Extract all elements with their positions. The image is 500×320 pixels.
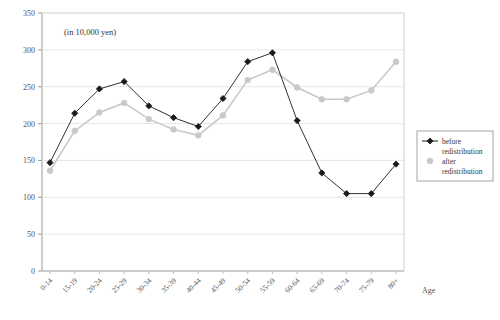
data-point-marker: [171, 127, 177, 133]
y-tick-label: 100: [23, 193, 35, 202]
x-tick-label: 25-29: [110, 276, 129, 295]
x-tick-label: 65-69: [308, 276, 327, 295]
data-point-marker: [245, 77, 251, 83]
x-tick-label: 30-34: [135, 276, 154, 295]
data-point-marker: [344, 96, 350, 102]
data-point-marker: [47, 168, 53, 174]
data-point-marker: [294, 85, 300, 91]
chart-legend: beforeredistributionafterredistribution: [417, 131, 493, 181]
x-tick-label: 35-39: [159, 276, 178, 295]
data-point-marker: [195, 132, 201, 138]
x-tick-label: 15-19: [60, 276, 79, 295]
y-tick-label: 350: [23, 9, 35, 18]
data-point-marker: [170, 115, 176, 121]
legend-label-after-line2: redistribution: [442, 167, 483, 176]
y-tick-label: 0: [31, 267, 35, 276]
x-tick-label: 75-79: [357, 276, 376, 295]
y-tick-label: 250: [23, 83, 35, 92]
legend-label-before-line2: redistribution: [442, 147, 483, 156]
x-tick-label: 20-24: [85, 276, 104, 295]
x-tick-label: 45-49: [209, 276, 228, 295]
unit-note: (in 10,000 yen): [64, 27, 116, 37]
data-point-marker: [269, 50, 275, 56]
chart-container: 0501001502002503003500-1415-1920-2425-29…: [0, 0, 500, 320]
data-point-marker: [368, 88, 374, 94]
y-tick-label: 300: [23, 46, 35, 55]
data-point-marker: [121, 100, 127, 106]
x-axis-title: Age: [422, 286, 436, 295]
data-point-marker: [97, 110, 103, 116]
x-tick-label: 70-74: [332, 276, 351, 295]
data-point-marker: [270, 67, 276, 73]
x-tick-label: 40-44: [184, 276, 203, 295]
legend-label-after-line1: after: [442, 157, 456, 166]
y-tick-label: 200: [23, 120, 35, 129]
data-point-marker: [393, 59, 399, 65]
legend-label-before-line1: before: [442, 137, 462, 146]
data-point-marker: [220, 113, 226, 119]
data-point-marker: [146, 116, 152, 122]
data-point-marker: [294, 118, 300, 124]
x-tick-label: 50-54: [233, 276, 252, 295]
data-point-marker: [427, 158, 433, 164]
data-point-marker: [72, 128, 78, 134]
x-tick-label: 0-14: [38, 276, 54, 292]
data-point-marker: [319, 96, 325, 102]
line-chart: 0501001502002503003500-1415-1920-2425-29…: [0, 0, 500, 320]
x-tick-label: 60-64: [283, 276, 302, 295]
x-tick-label: 80+: [386, 276, 401, 291]
series-after-redistribution: [47, 59, 399, 174]
x-tick-label: 55-59: [258, 276, 277, 295]
y-tick-label: 50: [27, 230, 35, 239]
y-tick-label: 150: [23, 156, 35, 165]
data-point-marker: [245, 59, 251, 65]
